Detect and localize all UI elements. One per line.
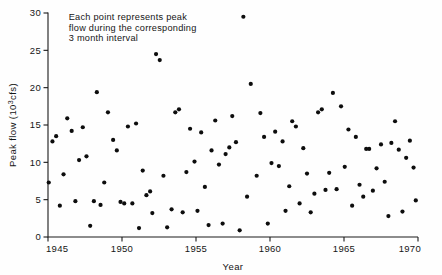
data-point [144,193,148,197]
data-point [354,135,358,139]
data-point [258,111,262,115]
data-point [73,199,77,203]
axes [48,13,418,238]
data-point [255,174,259,178]
x-tick-label-1970: 1970 [399,243,421,254]
data-point [84,154,88,158]
y-tick-label-25: 25 [30,45,41,56]
point-description-line-2: flow during the corresponding [69,23,197,33]
data-point [88,224,92,228]
data-point [335,187,339,191]
data-point [305,171,309,175]
data-point [414,198,418,202]
data-point [122,201,126,205]
y-tick-label-20: 20 [30,82,41,93]
data-point [249,82,253,86]
data-point [95,90,99,94]
data-point [137,226,141,230]
data-point [343,165,347,169]
data-point [81,125,85,129]
data-point [331,91,335,95]
data-point [389,141,393,145]
x-tick-label-1950: 1950 [111,243,133,254]
data-point [400,210,404,214]
chart-canvas: 051015202530194519501955196019651970 Eac… [0,0,442,275]
data-point [411,165,415,169]
data-point [199,130,203,134]
data-point [209,148,213,152]
data-point [92,199,96,203]
x-tick-label-1955: 1955 [185,243,207,254]
data-point [50,139,54,143]
data-point [309,210,313,214]
data-point [148,189,152,193]
data-point [106,110,110,114]
y-tick-label-5: 5 [35,194,41,205]
data-point [118,200,122,204]
data-point [234,140,238,144]
data-point [408,139,412,143]
data-point [65,116,69,120]
data-point [290,119,294,123]
data-point [280,139,284,143]
data-point [192,159,196,163]
data-points [47,15,418,233]
data-point [203,185,207,189]
point-description-line-3: 3 month interval [69,33,138,43]
data-point [181,210,185,214]
x-tick-label-1945: 1945 [46,243,68,254]
data-point [404,156,408,160]
data-point [188,127,192,131]
data-point [371,189,375,193]
data-point [245,195,249,199]
data-point [397,148,401,152]
y-tick-label-15: 15 [30,119,41,130]
data-point [177,107,181,111]
data-point [134,121,138,125]
data-point [346,127,350,131]
data-point [224,152,228,156]
data-point [273,130,277,134]
data-point [150,211,154,215]
data-point [316,110,320,114]
data-point [312,192,316,196]
data-point [277,164,281,168]
data-point [154,52,158,56]
data-point [301,146,305,150]
data-point [266,221,270,225]
y-tick-label-0: 0 [35,231,41,242]
data-point [206,223,210,227]
axis-spines [48,13,418,238]
data-point [217,162,221,166]
data-point [320,107,324,111]
data-point [70,129,74,133]
data-point [221,221,225,225]
data-point [115,148,119,152]
data-point [111,138,115,142]
data-point [173,110,177,114]
data-point [227,145,231,149]
data-point [379,142,383,146]
data-point [161,174,165,178]
point-description-line-1: Each point represents peak [69,12,188,22]
data-point [327,171,331,175]
data-point [393,119,397,123]
data-point [169,207,173,211]
data-point [58,204,62,208]
data-point [241,15,245,19]
x-tick-label-1960: 1960 [259,243,281,254]
data-point [374,166,378,170]
data-point [262,135,266,139]
data-point [184,170,188,174]
data-point [361,195,365,199]
y-tick-label-10: 10 [30,157,41,168]
data-point [130,201,134,205]
x-tick-label-1965: 1965 [333,243,355,254]
data-point [323,188,327,192]
data-point [283,209,287,213]
data-point [230,114,234,118]
data-point [350,204,354,208]
data-point [141,168,145,172]
data-point [298,201,302,205]
axis-tick-labels: 051015202530194519501955196019651970 [30,7,421,254]
